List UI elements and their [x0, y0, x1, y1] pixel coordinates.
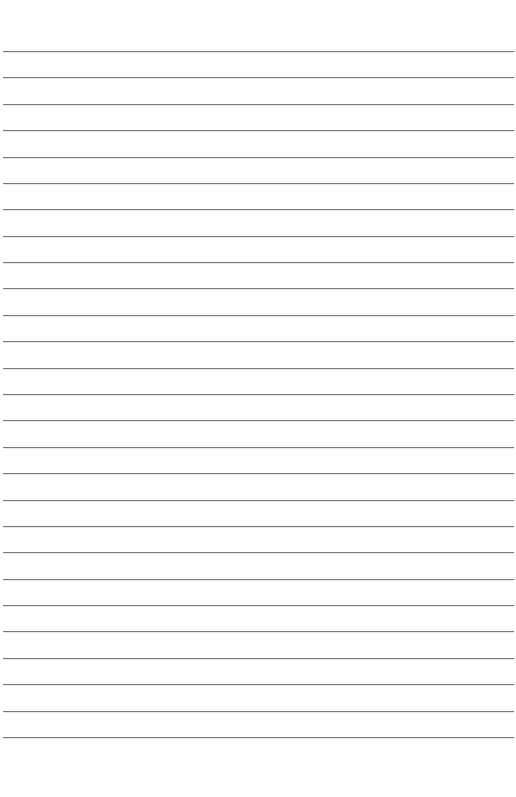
ruled-line: [3, 157, 514, 158]
ruled-line: [3, 711, 514, 712]
ruled-line: [3, 288, 514, 289]
ruled-line: [3, 104, 514, 105]
ruled-line: [3, 315, 514, 316]
ruled-line: [3, 420, 514, 421]
ruled-line: [3, 394, 514, 395]
ruled-line: [3, 341, 514, 342]
ruled-line: [3, 51, 514, 52]
ruled-line: [3, 473, 514, 474]
ruled-line: [3, 500, 514, 501]
ruled-line: [3, 684, 514, 685]
ruled-line: [3, 183, 514, 184]
ruled-line: [3, 658, 514, 659]
ruled-line: [3, 447, 514, 448]
ruled-line: [3, 130, 514, 131]
ruled-line: [3, 605, 514, 606]
ruled-line: [3, 368, 514, 369]
ruled-line: [3, 579, 514, 580]
ruled-line: [3, 737, 514, 738]
ruled-line: [3, 262, 514, 263]
ruled-line: [3, 77, 514, 78]
ruled-line: [3, 236, 514, 237]
ruled-line: [3, 631, 514, 632]
lined-paper-page: [0, 0, 516, 797]
ruled-line: [3, 209, 514, 210]
ruled-line: [3, 552, 514, 553]
ruled-line: [3, 526, 514, 527]
